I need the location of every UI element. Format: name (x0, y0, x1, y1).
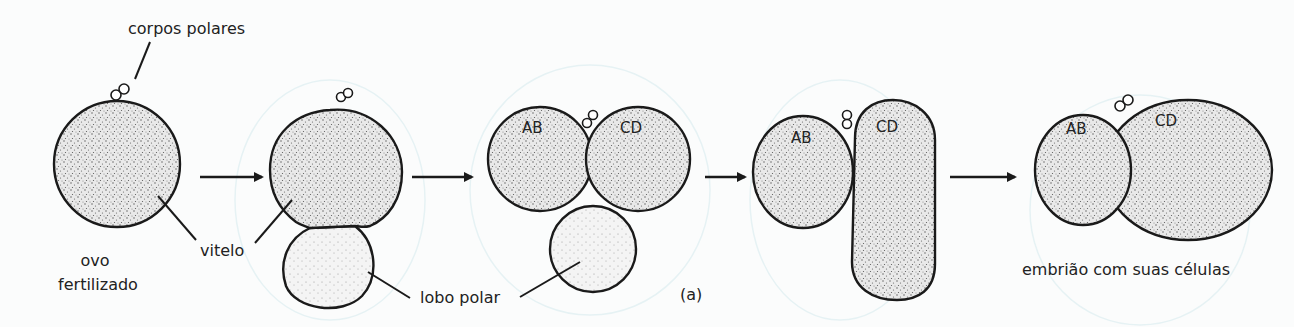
yolk-cell (270, 110, 402, 228)
polar-bodies-icon (337, 89, 353, 102)
polar-bodies-icon (111, 84, 129, 100)
polar-bodies-leader (135, 42, 150, 79)
stage-5-embryo: AB CD embrião com suas células (1022, 95, 1272, 279)
embryo-label: embrião com suas células (1022, 260, 1230, 279)
polar-lobe-shape (550, 206, 636, 292)
stage-3-first-cleavage: AB CD (a) (488, 107, 702, 304)
polar-lobe-shape (283, 226, 373, 308)
yolk-leader-2 (255, 200, 292, 243)
cell-ab-label: AB (791, 129, 812, 147)
polar-bodies-label: corpos polares (128, 19, 245, 38)
stage-4-lobe-absorbed: AB CD (753, 100, 935, 300)
panel-label: (a) (680, 285, 702, 304)
egg-cell (54, 101, 180, 227)
fertilized-egg-label-line1: ovo (80, 251, 109, 270)
yolk-leader-1 (158, 196, 196, 240)
cell-cd-label: CD (1155, 112, 1177, 130)
diagram-canvas: corpos polares ovo fertilizado vitelo lo… (0, 0, 1294, 327)
cell-cd-label: CD (620, 119, 642, 137)
fertilized-egg-label-line2: fertilizado (58, 275, 138, 294)
stage-2-polar-lobe-formation (255, 89, 410, 309)
cell-ab-label: AB (522, 119, 543, 137)
yolk-label: vitelo (200, 241, 244, 260)
cell-ab-label: AB (1066, 120, 1087, 138)
cell-cd-label: CD (876, 118, 898, 136)
polar-bodies-icon (843, 111, 852, 129)
polar-lobe-label: lobo polar (420, 288, 500, 307)
polar-bodies-icon (583, 111, 598, 128)
